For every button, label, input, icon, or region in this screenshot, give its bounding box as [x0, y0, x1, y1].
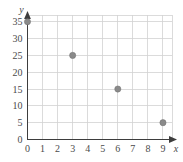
x-tick-label: 8 — [145, 143, 150, 154]
x-tick-label: 0 — [25, 143, 30, 154]
y-tick-label: 5 — [18, 117, 23, 128]
y-tick-label: 20 — [13, 67, 23, 78]
x-tick-label: 7 — [130, 143, 135, 154]
x-axis-label: x — [173, 143, 179, 154]
y-axis-label: y — [18, 4, 24, 15]
y-tick-label: 10 — [13, 100, 23, 111]
y-tick-label: 25 — [13, 50, 23, 61]
scatter-plot-figure: 012345678905101520253035xy — [0, 0, 183, 162]
y-tick-label: 35 — [13, 16, 23, 27]
x-tick-label: 6 — [115, 143, 120, 154]
data-point-marker — [24, 19, 30, 25]
y-tick-label: 30 — [13, 33, 23, 44]
data-point-marker — [115, 86, 121, 92]
y-tick-label: 0 — [18, 134, 23, 145]
chart-canvas: 012345678905101520253035xy — [0, 0, 183, 162]
x-tick-label: 4 — [85, 143, 90, 154]
x-tick-label: 9 — [160, 143, 165, 154]
x-tick-label: 1 — [40, 143, 45, 154]
x-tick-label: 2 — [55, 143, 60, 154]
data-point-marker — [70, 52, 76, 58]
x-tick-label: 3 — [70, 143, 75, 154]
x-tick-label: 5 — [100, 143, 105, 154]
data-point-marker — [160, 120, 166, 126]
y-tick-label: 15 — [13, 84, 23, 95]
